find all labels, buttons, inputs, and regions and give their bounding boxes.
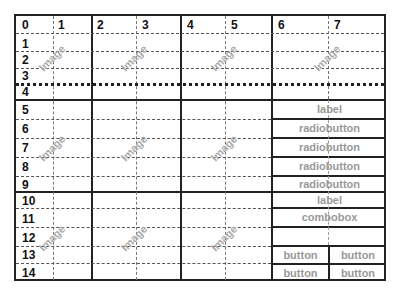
row-guide	[16, 119, 271, 120]
row-number: 14	[22, 267, 35, 279]
row-guide	[16, 246, 271, 247]
column-number: 4	[187, 19, 194, 31]
column-number: 1	[58, 19, 65, 31]
label-widget: label	[273, 193, 386, 207]
row-guide	[16, 33, 384, 34]
column-number: 3	[142, 19, 149, 31]
column-number: 7	[334, 19, 341, 31]
radiobutton[interactable]: radiobutton	[273, 139, 386, 156]
column-divider	[180, 14, 182, 281]
row-number: 7	[22, 142, 29, 154]
row-guide	[16, 208, 271, 209]
row-number: 10	[22, 195, 35, 207]
label-widget: label	[273, 101, 386, 118]
row-guide	[16, 68, 384, 69]
row-number: 6	[22, 123, 29, 135]
row-guide	[16, 263, 271, 264]
combobox[interactable]: combobox	[273, 209, 386, 226]
row-number: 9	[22, 179, 29, 191]
button[interactable]: button	[273, 247, 328, 263]
row-number: 11	[22, 213, 35, 225]
row-guide	[16, 176, 271, 177]
row-number: 8	[22, 161, 29, 173]
row-guide-bold	[16, 83, 384, 86]
column-number: 2	[97, 19, 104, 31]
widget-separator	[272, 226, 386, 228]
row-guide	[16, 157, 271, 158]
row-number: 5	[22, 104, 29, 116]
column-number: 0	[22, 19, 29, 31]
row-number: 3	[22, 70, 29, 82]
column-divider	[91, 14, 93, 281]
row-number: 4	[22, 86, 29, 98]
radiobutton[interactable]: radiobutton	[273, 177, 386, 191]
row-number: 13	[22, 249, 35, 261]
column-number: 6	[278, 19, 285, 31]
row-number: 12	[22, 232, 35, 244]
radiobutton[interactable]: radiobutton	[273, 158, 386, 175]
button[interactable]: button	[330, 247, 386, 263]
radiobutton[interactable]: radiobutton	[273, 120, 386, 137]
button[interactable]: button	[273, 265, 328, 281]
row-number: 1	[22, 38, 29, 50]
button[interactable]: button	[330, 265, 386, 281]
column-number: 5	[231, 19, 238, 31]
row-number: 2	[22, 54, 29, 66]
